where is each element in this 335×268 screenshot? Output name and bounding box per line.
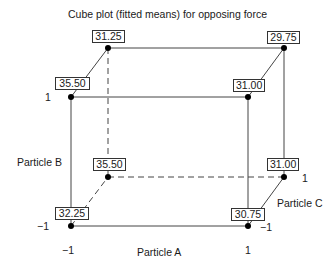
a-high-label: 1 <box>245 245 251 256</box>
value-back-top-right: 29.75 <box>267 31 300 44</box>
data-point <box>245 94 251 100</box>
b-low-label: −1 <box>37 221 49 232</box>
value-front-bottom-left: 32.25 <box>55 207 89 220</box>
value-back-bottom-right: 31.00 <box>267 158 299 171</box>
data-point <box>281 45 287 51</box>
data-point <box>68 223 74 229</box>
axis-b-label: Particle B <box>17 157 62 168</box>
data-point <box>68 94 74 100</box>
data-point <box>245 223 251 229</box>
data-point <box>105 174 111 180</box>
value-front-top-left: 35.50 <box>55 77 90 90</box>
axis-c-label: Particle C <box>277 198 323 209</box>
value-back-top-left: 31.25 <box>92 30 125 43</box>
c-high-label: 1 <box>302 173 308 184</box>
value-back-bottom-left: 35.50 <box>93 158 126 171</box>
value-front-bottom-right: 30.75 <box>231 208 265 221</box>
value-front-top-right: 31.00 <box>233 79 265 92</box>
b-high-label: 1 <box>45 92 51 103</box>
a-low-label: −1 <box>62 245 74 256</box>
data-point <box>281 174 287 180</box>
axis-a-label: Particle A <box>137 247 181 258</box>
c-low-label: −1 <box>260 222 272 233</box>
data-point <box>105 45 111 51</box>
